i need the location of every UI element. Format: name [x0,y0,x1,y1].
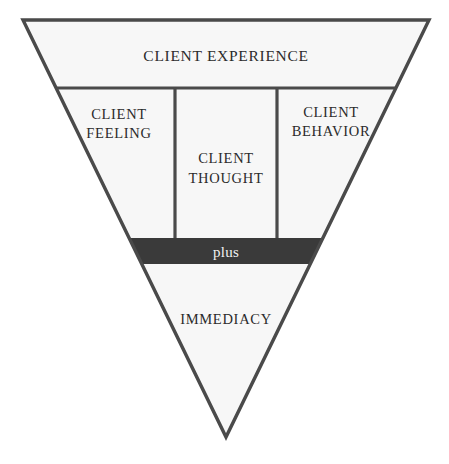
label-immediacy: IMMEDIACY [180,311,272,327]
label-plus: plus [213,244,239,260]
inverted-triangle-diagram: CLIENT EXPERIENCE CLIENT FEELING CLIENT … [0,0,449,464]
figure-root: FIGURE 9 FOCUSES CLIENT EXPERIENCE CLIEN… [0,0,449,464]
label-client-experience: CLIENT EXPERIENCE [143,47,308,64]
label-client-feeling-line2: FEELING [86,125,151,141]
label-client-behavior-line1: CLIENT [303,104,359,120]
label-client-behavior-line2: BEHAVIOR [292,123,371,139]
triangle-body [23,20,429,437]
label-client-thought-line2: THOUGHT [189,170,264,186]
label-client-thought-line1: CLIENT [198,150,254,166]
label-client-feeling-line1: CLIENT [91,106,147,122]
